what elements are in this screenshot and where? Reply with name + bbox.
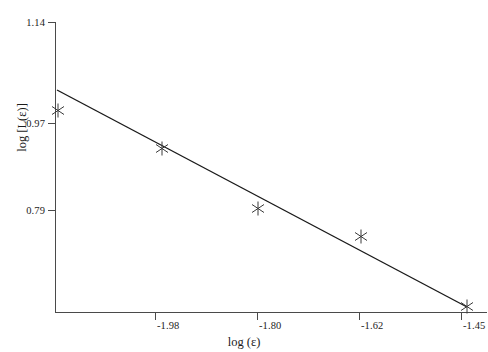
y-axis-title: log [L(ε)] bbox=[15, 78, 30, 178]
x-ticklabel-1: -1.80 bbox=[259, 320, 281, 331]
x-tick-group bbox=[156, 313, 462, 321]
fit-line bbox=[57, 90, 467, 307]
data-marker-4 bbox=[461, 300, 473, 314]
y-tick-group bbox=[48, 23, 56, 211]
data-marker-0 bbox=[52, 104, 64, 118]
x-axis-title: log (ε) bbox=[228, 335, 261, 349]
data-marker-3 bbox=[355, 230, 367, 244]
x-ticklabel-2: -1.62 bbox=[361, 320, 383, 331]
chart-svg: 1.14 0.97 0.79 -1.98 -1.80 -1.62 -1.45 bbox=[0, 0, 488, 352]
figure-canvas: 1.14 0.97 0.79 -1.98 -1.80 -1.62 -1.45 bbox=[0, 0, 488, 352]
data-marker-2 bbox=[252, 202, 264, 216]
y-ticklabel-2: 0.79 bbox=[26, 205, 45, 216]
y-ticklabel-0: 1.14 bbox=[26, 17, 45, 28]
x-ticklabel-0: -1.98 bbox=[157, 320, 179, 331]
x-ticklabel-3: -1.45 bbox=[463, 320, 485, 331]
